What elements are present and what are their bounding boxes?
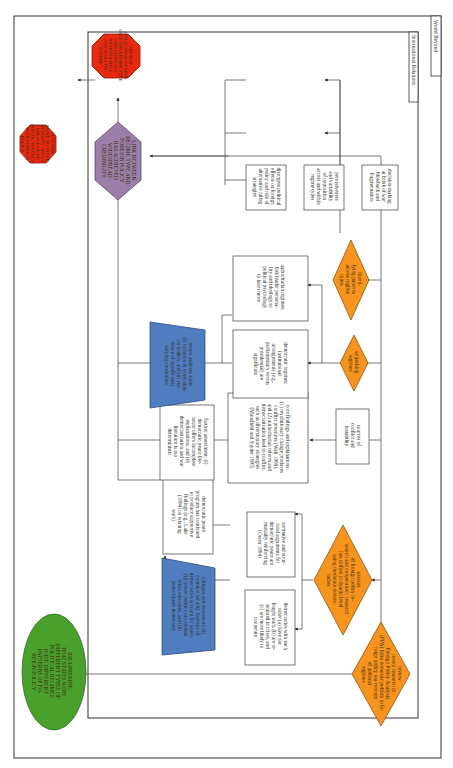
divergent-effects-box: divergent political effects on foreign p…	[246, 165, 286, 210]
svg-text:critiques and extensions: (i): critiques and extensions: (i) common sec…	[171, 573, 207, 639]
outcome-world-node: OUTCOME: MORE NUANCED INSIGHTS ABOUT LIN…	[20, 124, 56, 163]
label-international-relations: International Relations	[411, 35, 417, 85]
svg-text:IDEA/PREMISE: THAT STA: IDEA/PREMISE: THAT STATES WITH DIFFERENT…	[31, 644, 73, 700]
svg-text:core findings and explanations: core findings and explanations: (1) revo…	[248, 402, 291, 475]
democracies-each-other-box: democracies with each other (a) have not…	[245, 590, 295, 665]
svg-text:unpacking regimes: unpacking regimes	[348, 351, 360, 375]
svg-text:decision-making at bri: decision-making at brink of war blowback…	[369, 169, 393, 205]
outcome-ir-node: SEE BOX APPLICATION OF FIND- INGS FOR RE…	[92, 29, 140, 82]
svg-text:recent analyses show (: recent analyses show (i) variation in co…	[164, 337, 194, 392]
identifying-patterns-node: identi- fying patterns across regime typ…	[333, 240, 369, 320]
decision-making-box: decision-making at brink of war blowback…	[362, 165, 398, 210]
pervasiveness-opposition-box: pervasiveness and variability of opposit…	[304, 165, 344, 210]
link-credibility-node: LINK BETWEEN REGIME TYPE AND FOREIGN POL…	[95, 122, 141, 200]
sources-foreign-policy-node: sources of foreign policy re- search and…	[314, 525, 372, 635]
core-findings-box: core findings and explanations: (1) revo…	[228, 393, 308, 483]
further-assessment-box: further assessment: (i) democratic peace…	[160, 405, 214, 480]
sources-conflict-box: sources of conflict and instability	[336, 409, 369, 464]
democratic-regimes-box: democratic regimes: institutional arrang…	[233, 330, 308, 398]
normative-structural-box: normative and struc- tural arguments for…	[247, 512, 295, 577]
start-premise-node: IDEA/PREMISE: THAT STATES WITH DIFFERENT…	[22, 614, 86, 730]
unpacking-regimes-node: unpacking regimes	[340, 335, 368, 391]
svg-text:OUTCOME: MORE NUANCED: OUTCOME: MORE NUANCED INSIGHTS ABOUT LIN…	[20, 124, 55, 163]
svg-text:pervasiveness and vari: pervasiveness and variability of opposit…	[310, 168, 340, 206]
flowchart-diagram: World Beyond International Relations	[0, 0, 453, 768]
svg-text:sources of conflict an: sources of conflict and instability	[344, 423, 362, 449]
recent-analyses-node: recent analyses show (i) variation in co…	[150, 322, 205, 408]
critiques-extensions-node: critiques and extensions: (i) common sec…	[162, 558, 215, 655]
label-world-beyond: World Beyond	[433, 20, 439, 52]
democratic-peace-program-box: democratic peace program has continued t…	[163, 477, 213, 554]
authoritarian-regimes-box: authoritarian regimes: link leader perso…	[233, 256, 308, 321]
review-decision-node: review recent research in Foreign Policy…	[352, 622, 410, 726]
